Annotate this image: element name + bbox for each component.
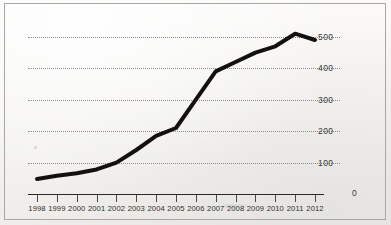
x-axis-tick-label: 2008 (227, 205, 244, 213)
x-axis-tick-label: 2012 (306, 205, 323, 213)
x-axis-tick-label: 2010 (267, 205, 284, 213)
x-axis-tick-label: 2007 (207, 205, 224, 213)
x-axis-tick (255, 195, 256, 202)
x-axis-tick-label: 2003 (128, 205, 145, 213)
x-axis-tick (295, 195, 296, 202)
x-axis-tick (97, 195, 98, 202)
x-axis-tick (77, 195, 78, 202)
plot-area (28, 18, 340, 194)
x-axis-tick-label: 2006 (187, 205, 204, 213)
x-axis-tick (136, 195, 137, 202)
x-axis-tick-label: 2004 (147, 205, 164, 213)
x-axis-tick (275, 195, 276, 202)
x-axis-tick (57, 195, 58, 202)
x-axis-tick (236, 195, 237, 202)
x-axis-tick-label: 2011 (287, 205, 304, 213)
x-axis-tick (196, 195, 197, 202)
x-axis-tick (176, 195, 177, 202)
x-axis-tick (315, 195, 316, 202)
x-axis-tick-label: 2000 (68, 205, 85, 213)
line-series (28, 18, 340, 194)
x-axis-tick (116, 195, 117, 202)
x-axis-tick (37, 195, 38, 202)
y-axis-zero-label: 0 (352, 189, 357, 198)
x-axis-tick-label: 2002 (108, 205, 125, 213)
x-axis-tick-label: 2009 (247, 205, 264, 213)
x-axis-tick-label: 2005 (167, 205, 184, 213)
x-axis-tick (156, 195, 157, 202)
x-axis-tick-label: 1998 (28, 205, 45, 213)
x-axis-tick-label: 1999 (48, 205, 65, 213)
x-axis-tick (216, 195, 217, 202)
chart-screenshot: 100200300400500 199819992000200120022003… (0, 0, 391, 225)
x-axis-tick-label: 2001 (88, 205, 105, 213)
